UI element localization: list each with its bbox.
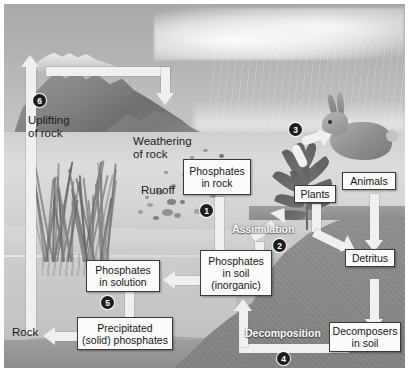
marker-step-6: 6 — [33, 94, 46, 107]
arrow-weathering-down — [161, 67, 170, 95]
phosphorus-cycle-figure: Phosphates in rock Phosphates in soil (i… — [0, 0, 409, 380]
marker-step-5-number: 5 — [105, 298, 110, 308]
label-uplifting-of-rock: Uplifting of rock — [28, 114, 70, 140]
box-phosphates-in-solution-label: Phosphates in solution — [95, 264, 150, 288]
arrow-uplifting-shaft — [26, 66, 36, 334]
arrow-weathering-head — [156, 93, 174, 105]
marker-step-4-number: 4 — [281, 354, 286, 364]
rock-fragment — [167, 199, 176, 205]
arrow-soil-to-solution-head — [163, 271, 175, 289]
arrow-uplifting-head — [21, 55, 39, 67]
box-decomposers-in-soil[interactable]: Decomposers in soil — [329, 322, 401, 352]
rabbit-tail — [386, 130, 398, 142]
box-animals[interactable]: Animals — [342, 172, 396, 190]
rabbit-eye — [328, 120, 332, 124]
marker-step-1-number: 1 — [204, 206, 209, 216]
arrow-rock-to-soil-shaft — [215, 197, 224, 253]
marker-step-4: 4 — [277, 352, 290, 365]
box-phosphates-in-rock[interactable]: Phosphates in rock — [183, 159, 251, 195]
arrow-decomposition-head — [234, 299, 252, 311]
rabbit-illustration — [320, 100, 400, 166]
label-rock: Rock — [12, 326, 38, 339]
rock-fragment — [203, 149, 208, 152]
box-animals-label: Animals — [350, 175, 387, 187]
marker-step-6-number: 6 — [37, 96, 42, 106]
box-phosphates-in-solution[interactable]: Phosphates in solution — [86, 260, 160, 292]
arrow-animals-to-detritus-shaft — [370, 194, 379, 242]
box-phosphates-in-soil[interactable]: Phosphates in soil (inorganic) — [200, 250, 272, 296]
marker-step-2: 2 — [273, 239, 286, 252]
marker-step-5: 5 — [101, 296, 114, 309]
rock-fragment — [164, 171, 168, 174]
box-phosphates-in-soil-label: Phosphates in soil (inorganic) — [208, 255, 263, 291]
rock-fragment — [153, 216, 159, 220]
marker-step-2-number: 2 — [277, 241, 282, 251]
rock-fragment — [147, 203, 153, 207]
rock-fragment — [180, 200, 185, 204]
box-plants[interactable]: Plants — [294, 185, 336, 203]
box-decomposers-in-soil-label: Decomposers in soil — [333, 325, 398, 349]
box-detritus-label: Detritus — [352, 252, 388, 264]
box-phosphates-in-rock-label: Phosphates in rock — [189, 165, 244, 189]
box-plants-label: Plants — [300, 188, 329, 200]
label-runoff: Runoff — [141, 184, 175, 197]
marker-step-3-number: 3 — [293, 125, 298, 135]
label-weathering-of-rock: Weathering of rock — [133, 135, 192, 161]
arrow-solution-to-precipitated-shaft — [125, 291, 134, 319]
rock-fragment — [219, 154, 224, 158]
label-assimilation: Assimilation — [232, 223, 294, 235]
label-decomposition: Decomposition — [245, 327, 321, 339]
grass-clump — [42, 154, 114, 262]
arrow-detritus-to-decomposers-shaft — [370, 279, 379, 321]
box-detritus[interactable]: Detritus — [345, 249, 395, 267]
marker-step-3: 3 — [289, 123, 302, 136]
marker-step-1: 1 — [200, 204, 213, 217]
rock-fragment — [162, 209, 173, 216]
box-precipitated-phosphates-label: Precipitated (solid) phosphates — [82, 322, 168, 346]
scene-illustration: Phosphates in rock Phosphates in soil (i… — [4, 4, 405, 368]
rock-fragment — [138, 210, 143, 214]
arrow-weathering-top — [46, 67, 170, 76]
rock-fragment — [174, 213, 181, 218]
arrow-precipitated-to-rock-head — [43, 327, 55, 345]
box-precipitated-phosphates[interactable]: Precipitated (solid) phosphates — [77, 317, 173, 350]
